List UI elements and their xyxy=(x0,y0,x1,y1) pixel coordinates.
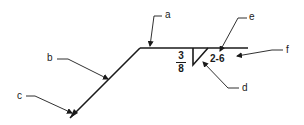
leader-a xyxy=(150,16,162,46)
label-c: c xyxy=(17,91,22,101)
weld-size-numerator: 3 xyxy=(178,50,184,61)
weld-size-denominator: 8 xyxy=(178,63,184,74)
leader-b xyxy=(57,59,108,79)
leader-c xyxy=(26,96,72,113)
weld-size-fraction: 3 8 xyxy=(176,51,186,74)
fillet-weld-symbol xyxy=(193,48,208,65)
length-pitch: 2-6 xyxy=(210,54,224,64)
leader-d xyxy=(203,62,239,88)
label-e: e xyxy=(249,12,255,22)
leader-e xyxy=(220,18,247,51)
label-a: a xyxy=(165,10,171,20)
label-b: b xyxy=(47,53,53,63)
leader-f xyxy=(237,50,283,56)
welding-symbol-diagram xyxy=(0,0,304,125)
label-f: f xyxy=(286,45,289,55)
arrow-line xyxy=(70,48,140,118)
label-d: d xyxy=(242,83,248,93)
